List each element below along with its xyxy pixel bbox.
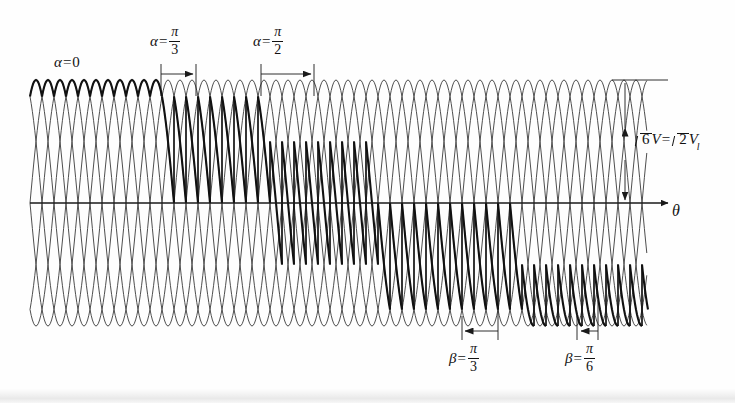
label-beta-pi-over-3: β=π3 bbox=[449, 343, 480, 375]
output-segment bbox=[42, 80, 54, 96]
denominator-3: 3 bbox=[169, 43, 180, 58]
denominator-6: 6 bbox=[584, 360, 595, 375]
label-theta-axis: θ bbox=[672, 203, 680, 219]
equals-symbol: = bbox=[456, 350, 466, 366]
voltage-symbol-v: V bbox=[652, 131, 661, 147]
numerator-pi: π bbox=[169, 25, 180, 40]
output-segment bbox=[102, 80, 114, 96]
fraction-pi-6: π6 bbox=[584, 342, 595, 374]
fraction-pi-3: π3 bbox=[169, 25, 180, 57]
numerator-pi: π bbox=[584, 342, 595, 357]
alpha-symbol: α bbox=[150, 33, 158, 49]
output-segment bbox=[78, 80, 90, 96]
sqrt-2: 2 bbox=[671, 132, 689, 147]
output-segment bbox=[66, 80, 78, 96]
equals-symbol: = bbox=[572, 350, 582, 366]
equals-symbol: = bbox=[62, 54, 72, 70]
numerator-pi: π bbox=[468, 342, 479, 357]
waveform-plot bbox=[0, 0, 735, 403]
label-alpha-zero: α=0 bbox=[54, 55, 80, 70]
output-segment bbox=[150, 80, 162, 96]
label-alpha-pi-over-3: α=π3 bbox=[150, 26, 181, 58]
equals-symbol: = bbox=[158, 33, 168, 49]
alpha-symbol: α bbox=[54, 54, 62, 70]
label-beta-pi-over-6: β=π6 bbox=[565, 343, 596, 375]
denominator-3: 3 bbox=[468, 360, 479, 375]
output-segment bbox=[30, 80, 42, 96]
page-footer-band bbox=[0, 388, 735, 403]
sqrt-6: 6 bbox=[634, 132, 652, 147]
output-segment bbox=[126, 80, 138, 96]
output-segment bbox=[90, 80, 102, 96]
denominator-2: 2 bbox=[272, 43, 283, 58]
output-segment bbox=[54, 80, 66, 96]
alpha-symbol: α bbox=[253, 33, 261, 49]
voltage-subscript-l: l bbox=[697, 141, 700, 152]
alpha-zero-value: 0 bbox=[72, 54, 80, 70]
figure-root: α=0 α=π3 α=π2 β=π3 β=π6 6V=2Vl θ bbox=[0, 0, 735, 403]
output-segment bbox=[138, 80, 150, 96]
equals-symbol: = bbox=[261, 33, 271, 49]
label-amplitude-value: 6V=2Vl bbox=[634, 132, 701, 150]
equals-symbol: = bbox=[661, 131, 671, 147]
commutation-vertical-bars bbox=[174, 96, 642, 326]
label-alpha-pi-over-2: α=π2 bbox=[253, 26, 284, 58]
fraction-pi-3: π3 bbox=[468, 342, 479, 374]
fraction-pi-2: π2 bbox=[272, 25, 283, 57]
numerator-pi: π bbox=[272, 25, 283, 40]
output-segment bbox=[114, 80, 126, 96]
